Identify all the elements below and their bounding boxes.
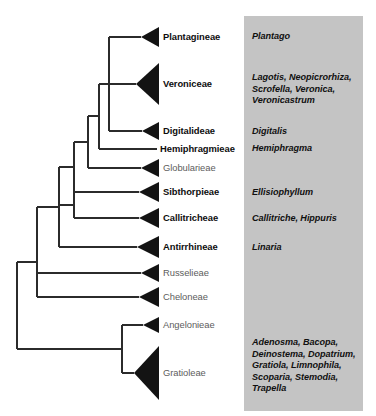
tip-label-gratioleae: Gratioleae [163,367,206,378]
clade-triangle-antirrhineae [137,236,159,258]
clade-triangle-globularieae [141,159,159,177]
clade-triangle-plantagineae [141,27,159,47]
clade-triangle-cheloneae [139,287,159,307]
tip-label-hemiphragmieae: Hemiphragmieae [160,143,235,154]
tip-label-plantagineae: Plantagineae [163,31,220,42]
genus-hemiphragma: Hemiphragma [252,143,312,155]
genus-ellisiophyllum: Ellisiophyllum [252,187,313,199]
tip-label-digitalideae: Digitalideae [163,125,215,136]
clade-triangle-veroniceae [136,63,159,105]
clade-triangle-sibthorpieae [139,182,159,202]
tip-label-callitricheae: Callitricheae [163,212,218,223]
genus-linaria: Linaria [252,242,281,254]
clade-triangle-angelonieae [143,317,159,333]
clade-triangle-digitalideae [142,122,159,140]
genus-plantago: Plantago [252,31,290,43]
clade-triangle-gratioleae [134,346,159,400]
genus-gratioleae: Adenosma, Bacopa, Deinostema, Dopatrium,… [252,337,356,395]
tip-label-cheloneae: Cheloneae [163,291,208,302]
genus-callitriche-hippuris: Callitriche, Hippuris [252,213,337,225]
clade-triangle-russelieae [141,264,159,282]
tip-label-angelonieae: Angelonieae [163,319,215,330]
genus-veroniceae: Lagotis, Neopicrorhiza, Scrofella, Veron… [252,72,351,107]
cladogram-figure: PlantagineaeVeroniceaeDigitalideaeHemiph… [0,0,376,416]
tip-label-sibthorpieae: Sibthorpieae [163,186,219,197]
tip-label-russelieae: Russelieae [163,267,209,278]
tip-label-veroniceae: Veroniceae [163,78,212,89]
tip-label-globularieae: Globularieae [163,162,216,173]
clade-triangle-callitricheae [139,208,159,228]
tip-label-antirrhineae: Antirrhineae [163,241,218,252]
genus-digitalis: Digitalis [252,126,287,138]
